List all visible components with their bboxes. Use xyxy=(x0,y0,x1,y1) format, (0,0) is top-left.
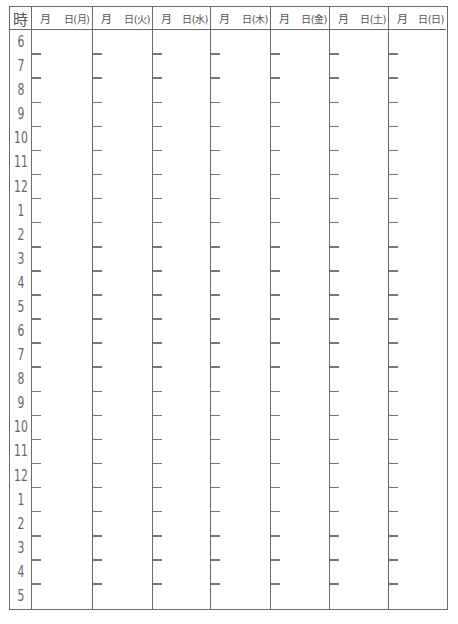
hour-tick xyxy=(32,270,41,272)
hour-tick xyxy=(93,294,102,296)
weekly-schedule-sheet: 時 月日(月)月日(火)月日(水)月日(木)月日(金)月日(土)月日(日) 67… xyxy=(9,6,448,610)
hour-tick xyxy=(211,463,220,465)
hour-label: 5 xyxy=(12,295,30,319)
hour-tick xyxy=(330,487,339,489)
hour-tick xyxy=(32,126,41,128)
hour-tick xyxy=(389,463,398,465)
day-header: 月日(土) xyxy=(330,7,389,30)
hour-tick xyxy=(32,294,41,296)
hour-tick xyxy=(211,53,220,55)
hour-label: 10 xyxy=(12,126,30,150)
hour-tick xyxy=(32,583,41,585)
day-column[interactable] xyxy=(93,30,154,609)
day-label: 日(火) xyxy=(124,11,150,26)
day-column[interactable] xyxy=(389,30,446,609)
day-label: 日(木) xyxy=(242,11,268,26)
hour-tick xyxy=(271,294,280,296)
hour-tick xyxy=(271,318,280,320)
hour-tick xyxy=(271,366,280,368)
day-header: 月日(金) xyxy=(271,7,330,30)
hour-tick xyxy=(389,366,398,368)
hour-tick xyxy=(330,77,339,79)
hour-tick xyxy=(153,102,162,104)
hour-tick xyxy=(211,318,220,320)
hour-tick xyxy=(389,318,398,320)
hour-tick xyxy=(93,53,102,55)
day-header: 月日(月) xyxy=(32,7,93,30)
hour-tick xyxy=(330,439,339,441)
hour-tick xyxy=(32,222,41,224)
hour-tick xyxy=(389,342,398,344)
hour-header-label: 時 xyxy=(13,8,28,29)
hour-tick xyxy=(153,487,162,489)
hour-tick xyxy=(153,150,162,152)
hour-tick xyxy=(93,318,102,320)
hour-tick xyxy=(211,559,220,561)
hour-tick xyxy=(93,222,102,224)
day-column[interactable] xyxy=(153,30,211,609)
day-label: 日(日) xyxy=(418,11,444,26)
hour-label: 3 xyxy=(12,247,30,271)
hour-tick xyxy=(153,391,162,393)
hour-tick xyxy=(211,222,220,224)
hour-label: 11 xyxy=(12,150,30,174)
month-label: 月 xyxy=(161,10,172,26)
hour-tick xyxy=(32,463,41,465)
hour-tick xyxy=(389,53,398,55)
hour-tick xyxy=(32,487,41,489)
hour-tick xyxy=(389,102,398,104)
hour-tick xyxy=(330,463,339,465)
hour-tick xyxy=(330,246,339,248)
day-label: 日(水) xyxy=(182,11,208,26)
hour-tick xyxy=(32,366,41,368)
hour-tick xyxy=(271,487,280,489)
hour-tick xyxy=(32,174,41,176)
hour-tick xyxy=(271,174,280,176)
hour-label: 12 xyxy=(12,464,30,488)
hour-tick xyxy=(153,222,162,224)
hour-tick xyxy=(330,318,339,320)
day-column[interactable] xyxy=(271,30,330,609)
day-header: 月日(火) xyxy=(93,7,154,30)
hour-tick xyxy=(32,535,41,537)
hour-tick xyxy=(330,583,339,585)
hour-tick xyxy=(93,511,102,513)
day-column[interactable] xyxy=(211,30,271,609)
hour-tick xyxy=(330,535,339,537)
hour-label: 11 xyxy=(12,439,30,463)
hour-tick xyxy=(389,126,398,128)
hour-tick xyxy=(93,487,102,489)
hour-tick xyxy=(330,222,339,224)
hour-tick xyxy=(389,174,398,176)
hour-tick xyxy=(93,583,102,585)
hour-tick xyxy=(32,318,41,320)
hour-header: 時 xyxy=(10,7,32,30)
day-column[interactable] xyxy=(330,30,389,609)
hour-tick xyxy=(271,559,280,561)
hour-tick xyxy=(153,415,162,417)
hour-tick xyxy=(330,126,339,128)
hour-tick xyxy=(389,198,398,200)
hour-tick xyxy=(389,415,398,417)
hour-label: 7 xyxy=(12,54,30,78)
hour-tick xyxy=(153,439,162,441)
hour-tick xyxy=(32,391,41,393)
hour-tick xyxy=(389,270,398,272)
hour-tick xyxy=(389,535,398,537)
hour-tick xyxy=(330,294,339,296)
hour-tick xyxy=(153,53,162,55)
month-label: 月 xyxy=(279,10,290,26)
hour-tick xyxy=(32,198,41,200)
hour-tick xyxy=(330,366,339,368)
hour-tick xyxy=(389,391,398,393)
hour-tick xyxy=(153,511,162,513)
day-header: 月日(水) xyxy=(153,7,211,30)
hour-tick xyxy=(330,342,339,344)
hour-tick xyxy=(271,535,280,537)
day-column[interactable] xyxy=(32,30,93,609)
hour-tick xyxy=(32,415,41,417)
hour-tick xyxy=(330,415,339,417)
hour-tick xyxy=(389,150,398,152)
hour-tick xyxy=(211,342,220,344)
hour-tick xyxy=(32,511,41,513)
